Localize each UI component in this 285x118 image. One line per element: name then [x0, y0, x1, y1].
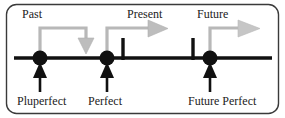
tense-label-pluperfect: Pluperfect	[17, 95, 66, 107]
tense-label-future-perfect: Future Perfect	[188, 95, 256, 107]
era-label-future: Future	[197, 8, 228, 20]
era-label-present: Present	[127, 8, 162, 20]
tense-timeline-diagram: Past Present Future Pluperfect Perfect F…	[0, 0, 285, 118]
era-label-past: Past	[22, 8, 42, 20]
tense-label-perfect: Perfect	[88, 95, 122, 107]
